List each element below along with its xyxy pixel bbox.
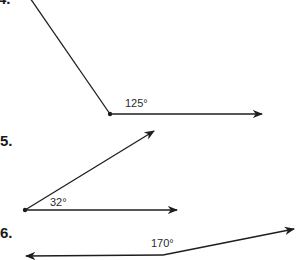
problem-number: 6. bbox=[0, 224, 13, 241]
problem-number: 5. bbox=[0, 132, 13, 149]
problem-4: 4. 125° bbox=[0, 0, 262, 116]
angles-worksheet: 4. 125° 5. 32° 6. 170° bbox=[0, 0, 296, 260]
angle-label: 32° bbox=[50, 196, 67, 208]
angle-ray-upper bbox=[25, 131, 154, 210]
problem-number: 4. bbox=[0, 0, 11, 7]
angle-label: 170° bbox=[151, 237, 174, 249]
angle-ray-right bbox=[163, 229, 294, 255]
angle-ray-upper bbox=[30, 0, 110, 114]
vertex-dot bbox=[23, 208, 27, 212]
problem-5: 5. 32° bbox=[0, 131, 177, 212]
angle-ray-left bbox=[26, 255, 163, 256]
vertex-dot bbox=[108, 112, 112, 116]
problem-6: 6. 170° bbox=[0, 224, 294, 256]
angle-label: 125° bbox=[125, 97, 148, 109]
